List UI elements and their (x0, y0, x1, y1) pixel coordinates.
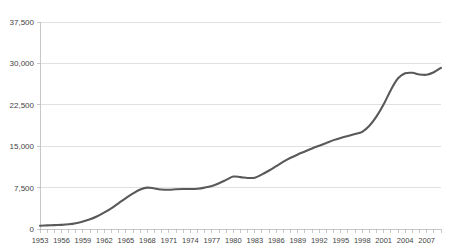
data-line-series (40, 68, 441, 226)
gridlines-group (37, 22, 441, 229)
x-tick-label: 1998 (354, 236, 371, 245)
y-tick-label: 0 (30, 225, 35, 234)
x-tick-label: 1983 (246, 236, 263, 245)
line-chart: 07,50015,00022,50030,00037,500 195319561… (0, 0, 451, 251)
x-tick-label: 1992 (311, 236, 328, 245)
x-tick-label: 1959 (75, 236, 92, 245)
data-series-group (40, 68, 441, 226)
x-tick-label: 1995 (332, 236, 349, 245)
y-axis-labels-group: 07,50015,00022,50030,00037,500 (10, 18, 35, 234)
x-tick-label: 1968 (139, 236, 156, 245)
x-tick-label: 2004 (397, 236, 414, 245)
x-tick-label: 2001 (375, 236, 392, 245)
x-axis-labels-group: 1953195619591962196519681971197419771980… (32, 236, 435, 245)
x-tick-label: 1956 (53, 236, 70, 245)
x-tick-label: 1977 (204, 236, 221, 245)
x-tick-label: 1986 (268, 236, 285, 245)
x-tick-label: 1962 (96, 236, 113, 245)
x-tick-label: 2007 (418, 236, 435, 245)
y-tick-label: 30,000 (10, 59, 35, 68)
chart-plot-svg: 07,50015,00022,50030,00037,500 195319561… (0, 0, 451, 251)
x-tick-label: 1953 (32, 236, 49, 245)
y-tick-label: 7,500 (14, 184, 35, 193)
x-axis-ticks-group (40, 229, 441, 233)
x-tick-label: 1971 (161, 236, 178, 245)
x-tick-label: 1980 (225, 236, 242, 245)
y-tick-label: 15,000 (10, 142, 35, 151)
y-tick-label: 37,500 (10, 18, 35, 27)
x-tick-label: 1989 (289, 236, 306, 245)
x-tick-label: 1974 (182, 236, 199, 245)
y-tick-label: 22,500 (10, 101, 35, 110)
x-tick-label: 1965 (118, 236, 135, 245)
